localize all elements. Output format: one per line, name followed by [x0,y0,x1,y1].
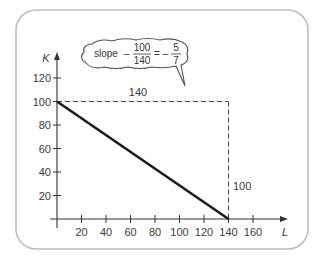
y-tick-label: 20 [39,190,51,202]
y-tick-label: 80 [39,119,51,131]
run-label: 140 [129,86,147,98]
x-tick-label: 100 [170,226,188,238]
x-tick-label: 140 [219,226,237,238]
simplified-denominator: 7 [173,55,179,66]
x-axis-label: L [282,226,288,238]
y-tick-label: 40 [39,166,51,178]
slope-denominator: 140 [134,55,151,66]
rise-label: 100 [233,180,251,192]
simplified-numerator: 5 [173,42,179,53]
slope-sign: – [124,48,130,59]
slope-equals: = – [154,48,169,59]
slope-prefix: slope [94,48,118,59]
x-tick-label: 20 [75,226,87,238]
x-tick-label: 40 [100,226,112,238]
chart-canvas: 20 40 60 80 100 120 K 20 40 60 80 100 12… [0,0,318,261]
x-tick-label: 60 [124,226,136,238]
x-tick-label: 120 [195,226,213,238]
x-tick-label: 160 [244,226,262,238]
x-tick-label: 80 [149,226,161,238]
y-tick-label: 120 [33,72,51,84]
y-tick-label: 60 [39,143,51,155]
y-tick-label: 100 [33,96,51,108]
slope-numerator: 100 [134,42,151,53]
y-axis-label: K [42,52,50,64]
